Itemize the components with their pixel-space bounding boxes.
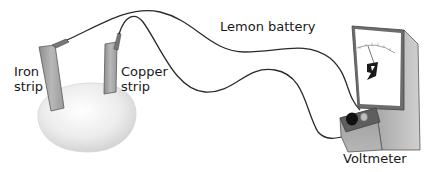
label-iron-strip: Iron strip (14, 64, 43, 94)
lemon-battery-diagram: Lemon battery Iron strip Copper strip Vo… (0, 0, 434, 172)
label-voltmeter: Voltmeter (343, 151, 407, 166)
terminal-black (346, 113, 358, 126)
label-copper-strip: Copper strip (121, 64, 168, 94)
meter-face (355, 29, 401, 106)
copper-strip (104, 33, 121, 94)
diagram-canvas (0, 0, 434, 172)
terminal-grey (361, 113, 368, 121)
voltmeter (340, 26, 420, 152)
label-lemon-battery: Lemon battery (220, 19, 315, 34)
